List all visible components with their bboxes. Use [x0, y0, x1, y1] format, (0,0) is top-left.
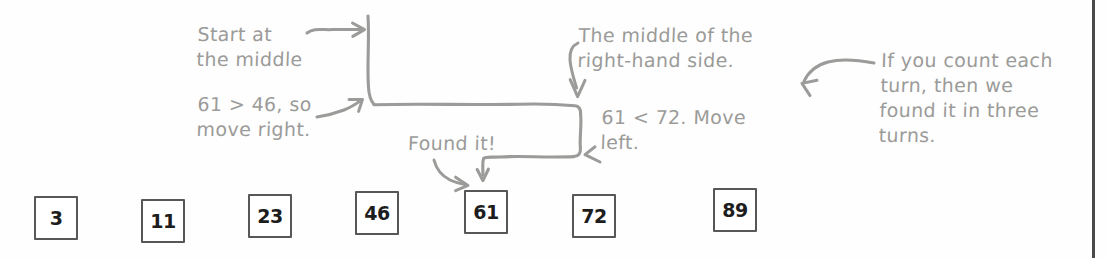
value-box-6[interactable]: 89	[713, 188, 757, 232]
value-box-3[interactable]: 46	[355, 191, 399, 235]
value-box-2[interactable]: 23	[248, 194, 292, 238]
arrow-left-icon	[585, 147, 600, 162]
value-box-1[interactable]: 11	[141, 199, 185, 243]
path-segment-turn-2	[374, 104, 581, 114]
page-edge-rule	[1092, 0, 1095, 258]
path-segment-final-hook	[483, 159, 484, 175]
arrow-up-right-icon	[317, 99, 363, 117]
path-segment-turn-2b	[574, 114, 581, 157]
value-label: 72	[581, 205, 606, 227]
value-box-0[interactable]: 3	[34, 196, 78, 240]
path-segment-turn-1	[368, 16, 374, 105]
path-segment-turn-3	[484, 157, 574, 159]
value-label: 11	[150, 210, 175, 232]
value-label: 23	[257, 205, 282, 227]
annotation-three-turns: If you count each turn, then we found it…	[878, 48, 1053, 148]
arrow-head-found-it	[477, 169, 488, 180]
arrow-curve-left-icon	[802, 60, 874, 96]
annotation-move-right: 61 > 46, so move right.	[196, 92, 312, 142]
value-label: 3	[50, 207, 63, 229]
annotation-right-hand-side: The middle of the right-hand side.	[577, 23, 753, 73]
value-box-4[interactable]: 61	[464, 190, 508, 234]
arrow-curve-down-right-icon	[434, 160, 468, 191]
value-label: 89	[722, 199, 747, 221]
value-label: 61	[473, 201, 498, 223]
annotation-move-left: 61 < 72. Move left.	[600, 105, 746, 155]
value-box-5[interactable]: 72	[572, 194, 616, 238]
annotation-start-middle: Start at the middle	[196, 22, 304, 72]
arrow-right-icon	[307, 23, 365, 36]
annotation-found-it: Found it!	[408, 131, 497, 156]
binary-search-figure: Start at the middle 61 > 46, so move rig…	[0, 0, 1107, 258]
value-label: 46	[364, 202, 389, 224]
